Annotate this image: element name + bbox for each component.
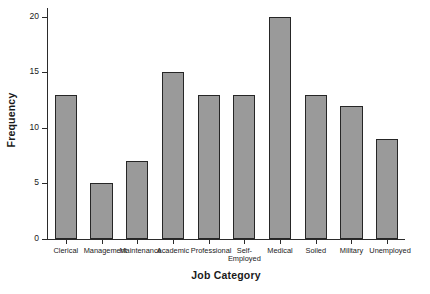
y-axis-tick-label: 5 <box>34 177 39 188</box>
x-axis-tick <box>280 240 281 244</box>
y-axis-title: Frequency <box>0 0 22 240</box>
bar-slot <box>162 8 184 239</box>
x-axis-tick <box>387 240 388 244</box>
bar <box>340 106 362 239</box>
bar-slot <box>55 8 77 239</box>
bar-slot <box>269 8 291 239</box>
bar-slot <box>376 8 398 239</box>
x-axis-tick <box>102 240 103 244</box>
x-axis-category-label: Medical <box>262 247 298 255</box>
plot-area: 05101520 ClericalManagementMaintenanceAc… <box>47 8 405 240</box>
y-axis-tick: 15 <box>42 72 47 73</box>
bar <box>233 95 255 239</box>
x-axis-tick <box>209 240 210 244</box>
bar <box>90 183 112 239</box>
x-axis-tick <box>137 240 138 244</box>
x-axis-category-label: Maintenance <box>119 247 155 255</box>
bar-slot <box>90 8 112 239</box>
x-axis-tick <box>351 240 352 244</box>
bar-slot <box>126 8 148 239</box>
y-axis-tick: 5 <box>42 183 47 184</box>
x-axis-category-label: Military <box>334 247 370 255</box>
y-axis-tick-label: 20 <box>30 11 39 22</box>
x-axis-tick <box>244 240 245 244</box>
x-axis-category-label: Management <box>84 247 120 255</box>
y-axis-title-text: Frequency <box>5 93 17 148</box>
x-axis-tick <box>316 240 317 244</box>
x-axis-category-label: Professional <box>191 247 227 255</box>
y-axis-tick: 0 <box>42 239 47 240</box>
y-axis-tick: 20 <box>42 17 47 18</box>
x-axis-tick <box>173 240 174 244</box>
x-axis-tick <box>66 240 67 244</box>
bar <box>269 17 291 239</box>
bar-slot <box>198 8 220 239</box>
bar-slot <box>340 8 362 239</box>
x-axis-category-label: Self- Employed <box>227 247 263 264</box>
y-axis-tick-label: 10 <box>30 122 39 133</box>
y-axis-tick-label: 15 <box>30 66 39 77</box>
bar-chart-figure: Frequency 05101520 ClericalManagementMai… <box>0 0 430 294</box>
bar-slot <box>233 8 255 239</box>
bar <box>198 95 220 239</box>
y-axis-tick: 10 <box>42 128 47 129</box>
bar <box>126 161 148 239</box>
x-axis-title: Job Category <box>47 269 405 281</box>
bar-series <box>48 8 405 239</box>
y-axis-tick-label: 0 <box>34 233 39 244</box>
x-axis-category-label: Unemployed <box>369 247 405 255</box>
bar <box>55 95 77 239</box>
bar-slot <box>305 8 327 239</box>
bar <box>305 95 327 239</box>
bar <box>162 72 184 239</box>
x-axis-category-label: Academic <box>155 247 191 255</box>
bar <box>376 139 398 239</box>
x-axis-category-label: Clerical <box>48 247 84 255</box>
x-axis-category-label: Soiled <box>298 247 334 255</box>
